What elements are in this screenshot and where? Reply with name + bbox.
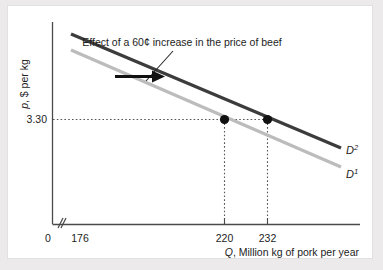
y-tick-label-330: 3.30 <box>27 113 48 125</box>
y-axis-title: p, $ per kg <box>18 59 30 110</box>
demand-curve-d1 <box>71 50 341 167</box>
figure-card: Effect of a 60¢ increase in the price of… <box>8 6 372 258</box>
equilibrium-point-232 <box>263 115 272 124</box>
shift-annotation-text: Effect of a 60¢ increase in the price of… <box>82 36 282 48</box>
axis-break-mark <box>58 218 66 228</box>
curve-label-d2: D2 <box>346 143 359 156</box>
curve-label-d1: D1 <box>346 167 358 180</box>
x-axis-title: Q, Million kg of pork per year <box>225 246 360 258</box>
demand-curve-d2 <box>71 34 341 148</box>
equilibrium-point-220 <box>220 115 229 124</box>
x-tick-label-0: 0 <box>45 232 51 244</box>
x-tick-label-220: 220 <box>216 232 234 244</box>
demand-shift-chart: Effect of a 60¢ increase in the price of… <box>8 6 372 258</box>
x-tick-label-232: 232 <box>259 232 277 244</box>
x-tick-label-176: 176 <box>71 232 89 244</box>
